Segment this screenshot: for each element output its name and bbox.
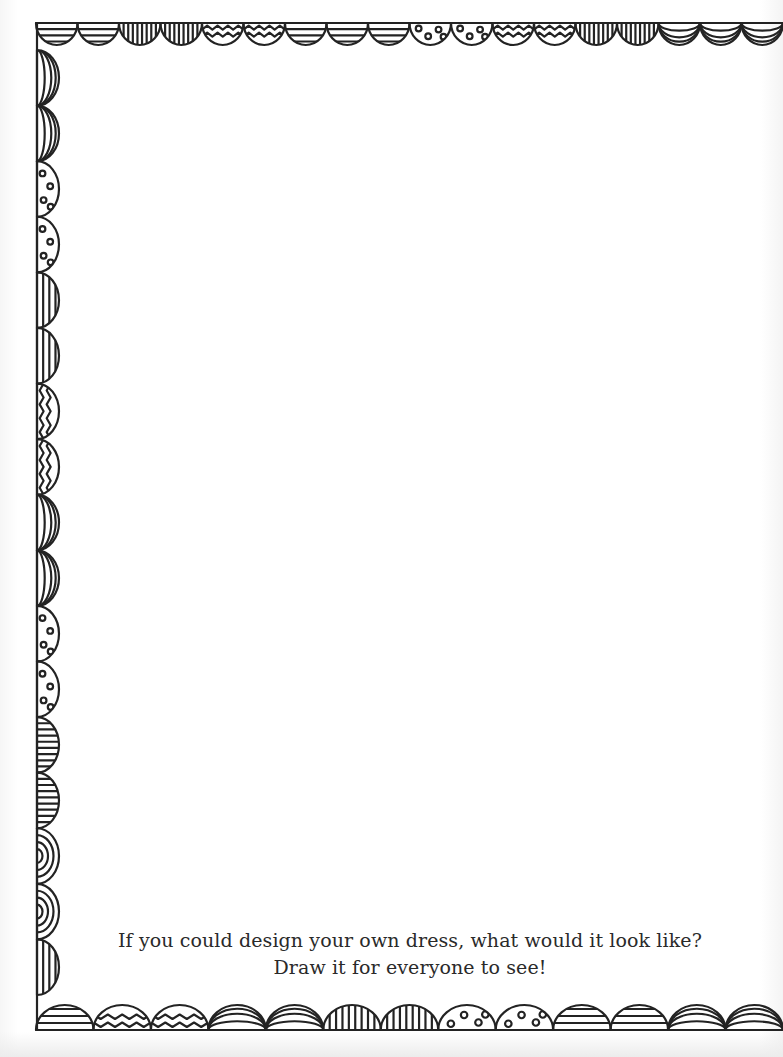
prompt-line-2: Draw it for everyone to see! [60,954,760,981]
prompt-line-1: If you could design your own dress, what… [60,927,760,954]
scalloped-border-decoration [0,0,783,1057]
drawing-prompt: If you could design your own dress, what… [60,927,760,981]
coloring-page: If you could design your own dress, what… [0,0,783,1057]
